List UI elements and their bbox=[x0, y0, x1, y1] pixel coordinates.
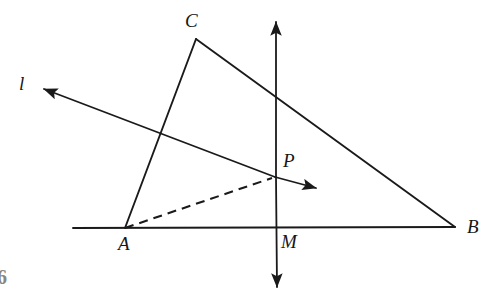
side-cb bbox=[196, 39, 455, 227]
label-line-l: l bbox=[19, 74, 24, 93]
label-vertex-a: A bbox=[118, 234, 130, 253]
label-point-m: M bbox=[281, 232, 297, 251]
label-point-p: P bbox=[283, 151, 295, 170]
line-l-ray-lower-right bbox=[275, 177, 316, 188]
label-vertex-b: B bbox=[467, 217, 479, 236]
line-l-ray-upper-left bbox=[44, 89, 275, 177]
segment-ap-dashed bbox=[125, 178, 272, 228]
vertical-line-down bbox=[276, 177, 277, 287]
label-vertex-c: C bbox=[185, 11, 198, 30]
page-number-mark: 6 bbox=[0, 267, 7, 287]
geometry-figure: C l P B A M 6 bbox=[0, 0, 501, 301]
figure-canvas bbox=[0, 0, 501, 301]
